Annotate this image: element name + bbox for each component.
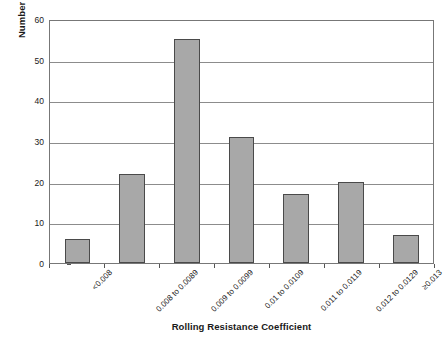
x-axis-tick-label: 0.012 to 0.0129 [374,268,420,314]
x-axis-tick-label: 0.009 to 0.0099 [209,268,255,314]
y-axis-tick-label: 40 [22,97,44,106]
bar[interactable] [229,137,255,263]
bar-slot [214,21,269,263]
bar-slot [269,21,324,263]
x-axis-tick-label: ≥0.013 [420,268,444,292]
y-axis-tick-labels: 0102030405060 [22,20,44,264]
y-axis-tick-label: 20 [22,179,44,188]
bars-container [50,21,433,263]
bar[interactable] [393,235,419,263]
y-axis-tick-label: 60 [22,16,44,25]
bar[interactable] [174,39,200,263]
x-axis-tick-mark [434,264,435,268]
x-axis-tick-label: 0.008 to 0.0089 [154,268,200,314]
y-axis-tick-label: 0 [22,260,44,269]
bar-slot [105,21,160,263]
bar-slot [324,21,379,263]
bar[interactable] [119,174,145,263]
x-axis-tick-label: <0.008 [90,268,114,292]
y-axis-tick-label: 10 [22,219,44,228]
y-axis-tick-label: 30 [22,138,44,147]
bar[interactable] [65,239,91,263]
bar-slot [50,21,105,263]
bar-slot [159,21,214,263]
y-axis-tick-label: 50 [22,57,44,66]
bar-chart-figure: Number of Tires 0102030405060 <0.0080.00… [0,0,444,344]
bar-slot [378,21,433,263]
plot-area [49,20,434,264]
x-axis-tick-label: 0.01 to 0.0109 [262,268,305,311]
x-axis-tick-labels: <0.0080.008 to 0.00890.009 to 0.00990.01… [49,268,434,316]
bar[interactable] [338,182,364,263]
x-axis-tick-label: 0.011 to 0.0119 [318,268,363,313]
x-axis-title: Rolling Resistance Coefficient [49,321,434,332]
bar[interactable] [283,194,309,263]
